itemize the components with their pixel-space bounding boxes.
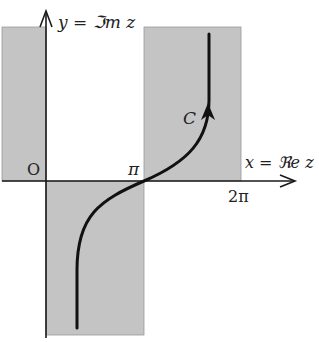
pi-label: π: [127, 159, 140, 179]
contour-label: C: [183, 108, 196, 128]
shaded-region-right-upper: [144, 27, 241, 181]
x-axis-label: x = ℜe z: [245, 153, 314, 172]
shaded-region-center-lower: [46, 181, 144, 335]
complex-plane-diagram: y = ℑm z x = ℜe z O π 2π C: [0, 0, 319, 342]
shaded-region-left-upper: [2, 27, 46, 181]
origin-label: O: [27, 160, 40, 179]
two-pi-label: 2π: [228, 187, 249, 206]
y-axis-label: y = ℑm z: [57, 12, 136, 32]
